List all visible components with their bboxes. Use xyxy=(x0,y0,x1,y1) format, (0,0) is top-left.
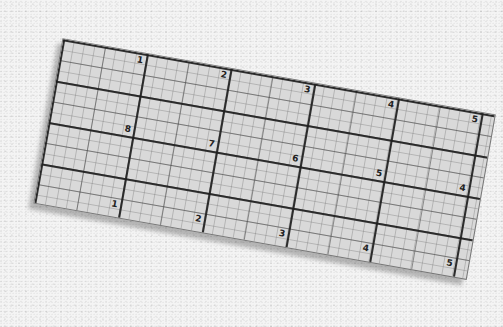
ruler-number: 5 xyxy=(446,257,454,268)
ruler-number: 4 xyxy=(459,182,467,193)
ruler-number: 4 xyxy=(387,99,395,110)
ruler-number: 5 xyxy=(471,114,479,125)
ruler-number: 3 xyxy=(278,228,286,239)
ruler-number: 2 xyxy=(220,69,228,80)
ruler-number: 4 xyxy=(362,243,370,254)
ruler-number: 1 xyxy=(136,54,144,65)
ruler-number: 6 xyxy=(291,153,299,164)
ruler-number: 3 xyxy=(304,84,312,95)
ruler-number: 2 xyxy=(194,213,202,224)
ruler-number: 8 xyxy=(124,123,132,134)
ruler-number: 5 xyxy=(375,168,383,179)
ruler-number: 7 xyxy=(208,138,216,149)
ruler-number: 1 xyxy=(111,198,119,209)
